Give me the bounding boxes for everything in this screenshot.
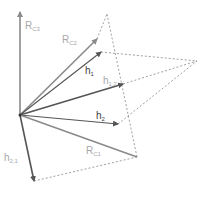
label-rc1: RC1 (86, 146, 101, 157)
label-rc1-sub: C1 (93, 151, 101, 157)
dashed-h2-to-right (118, 61, 197, 124)
dashed-rc2-extension (97, 14, 107, 39)
label-h12-sub: 1,2 (109, 81, 117, 87)
vector-h21-arrow (20, 115, 34, 181)
label-h21-sub: 2,1 (10, 158, 18, 164)
label-h2-sub: 2 (102, 116, 105, 122)
label-rc2: RC2 (62, 35, 77, 46)
label-rc2-sub: C2 (69, 40, 77, 46)
label-h12: h1,2 (103, 76, 117, 87)
vector-rc1-arrow (20, 115, 137, 157)
label-h2: h2 (96, 111, 105, 122)
vector-h1-arrow (20, 52, 101, 115)
dashed-h21-to-rc1 (34, 157, 137, 181)
label-h21: h2,1 (4, 153, 18, 164)
origin-point (19, 114, 22, 117)
label-h1-sub: 1 (91, 71, 94, 77)
dashed-construction-lines (34, 14, 197, 181)
label-h1: h1 (85, 66, 94, 77)
vectors (19, 12, 138, 181)
label-rc3: RC3 (25, 21, 40, 32)
label-rc3-sub: C3 (32, 26, 40, 32)
dashed-h12-to-right (123, 61, 197, 84)
